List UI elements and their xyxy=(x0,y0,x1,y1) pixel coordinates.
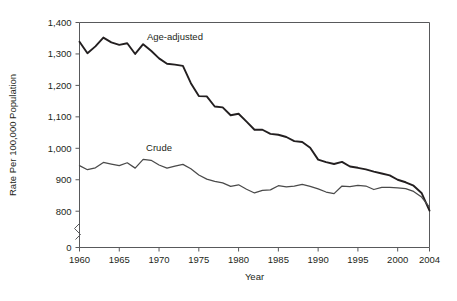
x-tick-label: 1995 xyxy=(347,254,368,265)
x-tick-label: 1990 xyxy=(308,254,329,265)
series-line-crude xyxy=(80,159,430,207)
y-tick-label: 1,400 xyxy=(48,17,72,28)
series-line-age-adjusted xyxy=(80,38,430,211)
x-tick-label: 1960 xyxy=(69,254,90,265)
series-label-age-adjusted: Age-adjusted xyxy=(147,31,203,42)
x-tick-label: 1975 xyxy=(188,254,209,265)
x-tick-label: 1970 xyxy=(148,254,169,265)
x-tick-label: 1965 xyxy=(109,254,130,265)
x-tick-label: 1980 xyxy=(228,254,249,265)
y-axis-title: Rate Per 100,000 Population xyxy=(7,74,18,196)
y-tick-label: 1,100 xyxy=(48,111,72,122)
series-label-crude: Crude xyxy=(146,142,172,153)
y-tick-label: 900 xyxy=(56,174,72,185)
y-tick-label: 1,000 xyxy=(48,143,72,154)
y-tick-label: 1,300 xyxy=(48,48,72,59)
y-tick-label: 1,200 xyxy=(48,80,72,91)
x-tick-label: 2000 xyxy=(387,254,408,265)
x-tick-label: 1985 xyxy=(268,254,289,265)
line-chart: 08009001,0001,1001,2001,3001,40019601965… xyxy=(0,0,457,301)
chart-container: 08009001,0001,1001,2001,3001,40019601965… xyxy=(0,0,457,301)
x-tick-label: 2004 xyxy=(419,254,440,265)
y-tick-label: 0 xyxy=(66,242,71,253)
x-axis-title: Year xyxy=(245,271,264,282)
plot-frame xyxy=(80,23,430,248)
y-tick-label: 800 xyxy=(56,206,72,217)
